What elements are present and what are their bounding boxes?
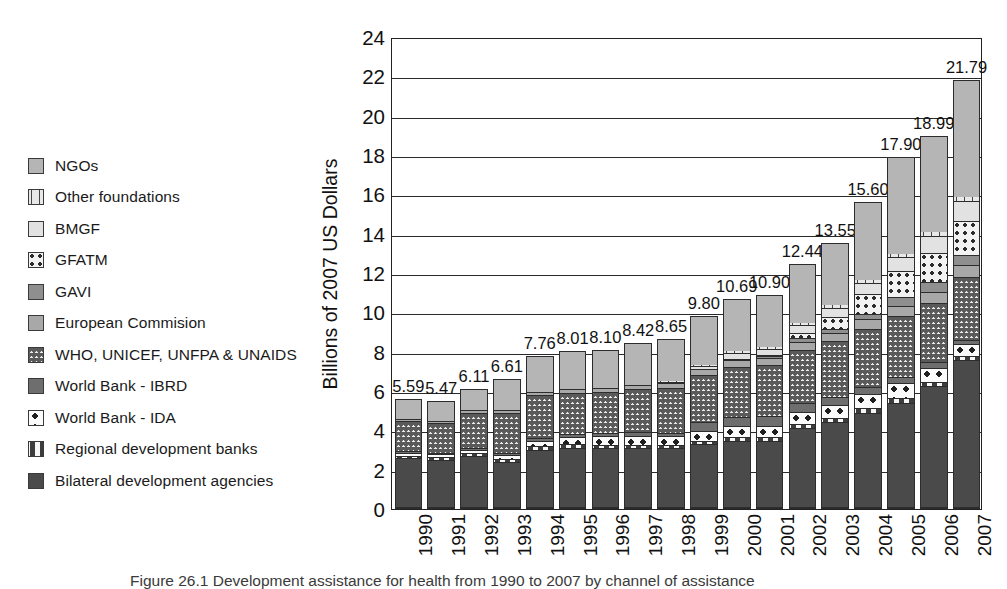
legend-item-label: GAVI: [55, 283, 91, 301]
bar-total-label: 6.11: [459, 367, 490, 386]
y-tick-label: 16: [362, 183, 385, 207]
bar-segment-ida: [625, 437, 651, 446]
bar-segment-eurocom: [724, 361, 750, 368]
bar-total-label: 8.01: [557, 329, 589, 348]
bar-total-label: 6.61: [491, 357, 523, 376]
bar-group-2004[interactable]: 15.60: [854, 37, 882, 509]
x-tick-label-1996: 1996: [612, 514, 634, 556]
bar-segment-ida: [822, 406, 848, 419]
bar-stack-2004[interactable]: [854, 202, 882, 509]
bar-segment-gfatm: [921, 254, 947, 283]
bar-segment-gfatm: [888, 272, 914, 299]
legend-item-otherfound[interactable]: Other foundations: [28, 182, 328, 214]
bar-segment-gavi: [888, 298, 914, 306]
bar-segment-who: [822, 342, 848, 397]
y-axis-title-wrap: Billions of 2007 US Dollars: [318, 38, 342, 510]
legend-swatch-ngos-icon: [28, 158, 44, 174]
legend-item-ibrd[interactable]: World Bank - IBRD: [28, 371, 328, 403]
bar-stack-2002[interactable]: [789, 264, 817, 509]
legend-swatch-ida-icon: [28, 410, 44, 426]
bar-group-1994[interactable]: 7.76: [526, 37, 554, 509]
bar-segment-ida: [757, 427, 783, 438]
legend-swatch-gfatm-icon: [28, 252, 44, 268]
bar-group-1990[interactable]: 5.59: [395, 37, 423, 509]
bar-stack-1992[interactable]: [460, 389, 488, 509]
legend-item-regional[interactable]: Regional development banks: [28, 434, 328, 466]
x-tick-label-1995: 1995: [580, 514, 602, 556]
x-tick-label-2005: 2005: [908, 514, 930, 556]
bar-segment-ngos: [625, 343, 651, 384]
bar-group-2007[interactable]: 21.79: [953, 37, 981, 509]
bar-stack-2003[interactable]: [821, 243, 849, 509]
bar-group-2003[interactable]: 13.55: [821, 37, 849, 509]
bar-stack-1995[interactable]: [559, 351, 587, 509]
bar-stack-2007[interactable]: [953, 80, 981, 509]
bar-segment-bilateral: [527, 451, 553, 508]
bar-stack-1990[interactable]: [395, 399, 423, 509]
bar-stack-1993[interactable]: [493, 379, 521, 509]
legend-item-label: WHO, UNICEF, UNFPA & UNAIDS: [55, 346, 297, 364]
bar-segment-ngos: [560, 351, 586, 388]
bar-segment-who: [724, 368, 750, 418]
legend-item-who[interactable]: WHO, UNICEF, UNFPA & UNAIDS: [28, 339, 328, 371]
bar-group-1995[interactable]: 8.01: [559, 37, 587, 509]
bar-group-1992[interactable]: 6.11: [460, 37, 488, 509]
legend-item-bilateral[interactable]: Bilateral development agencies: [28, 465, 328, 497]
bar-group-1991[interactable]: 5.47: [427, 37, 455, 509]
bar-group-1996[interactable]: 8.10: [592, 37, 620, 509]
bar-stack-2001[interactable]: [756, 295, 784, 509]
bar-segment-bmgf: [888, 258, 914, 272]
x-tick-label-1992: 1992: [481, 514, 503, 556]
legend-item-label: Other foundations: [55, 188, 180, 206]
legend-item-gfatm[interactable]: GFATM: [28, 245, 328, 277]
legend-item-ngos[interactable]: NGOs: [28, 150, 328, 182]
bar-group-1998[interactable]: 8.65: [657, 37, 685, 509]
bar-stack-1994[interactable]: [526, 356, 554, 509]
bar-stack-1999[interactable]: [690, 316, 718, 509]
bar-group-1993[interactable]: 6.61: [493, 37, 521, 509]
bar-segment-bilateral: [428, 461, 454, 508]
y-tick-label: 8: [374, 341, 385, 365]
x-tick-label-2007: 2007: [974, 514, 996, 556]
y-tick-label: 14: [362, 223, 385, 247]
legend-item-ida[interactable]: World Bank - IDA: [28, 402, 328, 434]
bar-stack-1991[interactable]: [427, 401, 455, 509]
bar-segment-ibrd: [757, 417, 783, 427]
bar-group-2006[interactable]: 18.99: [920, 37, 948, 509]
bar-segment-bilateral: [822, 423, 848, 508]
bar-stack-2005[interactable]: [887, 157, 915, 509]
bar-segment-who: [954, 278, 980, 341]
bar-segment-bmgf: [790, 326, 816, 333]
legend-swatch-bilateral-icon: [28, 473, 44, 489]
bar-segment-who: [921, 304, 947, 364]
bar-total-label: 7.76: [524, 334, 556, 353]
bar-total-label: 5.59: [392, 377, 424, 396]
x-tick-label-1991: 1991: [448, 514, 470, 556]
bar-segment-bmgf: [822, 309, 848, 318]
bar-segment-ngos: [724, 299, 750, 352]
bar-stack-1997[interactable]: [624, 343, 652, 509]
bar-segment-ngos: [494, 379, 520, 410]
y-tick-label: 22: [362, 65, 385, 89]
bar-stack-2006[interactable]: [920, 136, 948, 509]
legend-item-gavi[interactable]: GAVI: [28, 276, 328, 308]
legend-item-label: GFATM: [55, 251, 108, 269]
bar-segment-ngos: [954, 80, 980, 196]
bar-group-1999[interactable]: 9.80: [690, 37, 718, 509]
bar-stack-1998[interactable]: [657, 339, 685, 509]
bar-group-1997[interactable]: 8.42: [624, 37, 652, 509]
bar-group-2005[interactable]: 17.90: [887, 37, 915, 509]
bar-segment-bmgf: [855, 284, 881, 295]
legend-item-bmgf[interactable]: BMGF: [28, 213, 328, 245]
legend-item-eurocom[interactable]: European Commision: [28, 308, 328, 340]
bar-stack-2000[interactable]: [723, 299, 751, 509]
bar-group-2000[interactable]: 10.69: [723, 37, 751, 509]
bar-group-2001[interactable]: 10.90: [756, 37, 784, 509]
bar-segment-ibrd: [822, 398, 848, 406]
y-tick-label: 4: [374, 419, 385, 443]
bar-segment-who: [658, 389, 684, 434]
y-axis-tick-labels: 024681012141618202224: [343, 38, 385, 510]
bar-group-2002[interactable]: 12.44: [789, 37, 817, 509]
bar-stack-1996[interactable]: [592, 350, 620, 509]
bar-segment-who: [461, 414, 487, 449]
